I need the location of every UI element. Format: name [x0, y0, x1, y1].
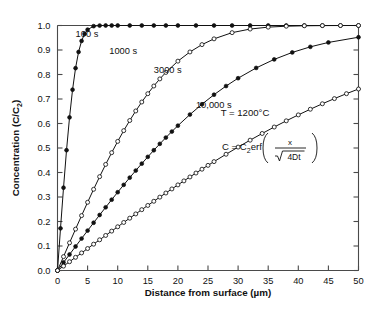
y-tick-label: 0.1	[38, 241, 51, 251]
data-point	[68, 253, 72, 257]
data-point	[158, 195, 162, 199]
data-point	[128, 119, 132, 123]
data-point	[158, 142, 162, 146]
data-point	[194, 24, 198, 28]
data-point	[116, 24, 120, 28]
data-point	[176, 124, 180, 128]
data-point	[176, 183, 180, 187]
data-point	[116, 225, 120, 229]
data-point	[128, 24, 132, 28]
data-point	[74, 66, 78, 70]
data-point	[98, 24, 102, 28]
data-point	[146, 203, 150, 207]
x-tick-label: 15	[143, 276, 153, 286]
data-point	[230, 31, 234, 35]
data-point	[212, 160, 216, 164]
data-point	[230, 24, 234, 28]
data-point	[308, 45, 312, 49]
data-point	[65, 148, 69, 152]
equation-numerator: x	[288, 138, 292, 147]
data-point	[176, 59, 180, 63]
data-point	[236, 76, 240, 80]
data-point	[110, 229, 114, 233]
data-point	[128, 216, 132, 220]
y-tick-label: 0.0	[38, 266, 51, 276]
data-point	[338, 24, 342, 28]
data-point	[86, 247, 90, 251]
data-point	[68, 241, 72, 245]
data-point	[92, 24, 96, 28]
data-point	[92, 187, 96, 191]
data-point	[62, 264, 66, 268]
data-point	[104, 162, 108, 166]
data-point	[128, 176, 132, 180]
data-point	[140, 208, 144, 212]
data-point	[116, 190, 120, 194]
data-point	[98, 213, 102, 217]
data-point	[308, 107, 312, 111]
data-point	[188, 50, 192, 54]
data-point	[122, 183, 126, 187]
data-point	[92, 221, 96, 225]
data-point	[200, 167, 204, 171]
data-point	[254, 66, 258, 70]
data-point	[212, 93, 216, 97]
x-tick-label: 50	[353, 276, 363, 286]
data-point	[56, 269, 60, 273]
data-point	[92, 242, 96, 246]
data-point	[284, 119, 288, 123]
data-point	[122, 129, 126, 133]
data-point	[332, 97, 336, 101]
y-tick-label: 0.3	[38, 192, 51, 202]
data-point	[320, 102, 324, 106]
data-point	[302, 24, 306, 28]
data-point	[134, 169, 138, 173]
data-point	[104, 205, 108, 209]
data-point	[176, 24, 180, 28]
curve-label-100-s: 100 s	[76, 29, 99, 39]
data-point	[158, 77, 162, 81]
data-point	[140, 162, 144, 166]
data-point	[68, 115, 72, 119]
y-tick-label: 0.9	[38, 45, 51, 55]
data-point	[86, 229, 90, 233]
data-point	[77, 50, 81, 54]
data-point	[194, 171, 198, 175]
data-point	[296, 113, 300, 117]
data-point	[152, 84, 156, 88]
data-point	[266, 25, 270, 29]
data-point	[140, 24, 144, 28]
data-point	[122, 220, 126, 224]
data-point	[344, 92, 348, 96]
diffusion-concentration-chart: 0.00.10.20.30.40.50.60.70.80.91.0 051015…	[0, 0, 380, 317]
data-point	[284, 24, 288, 28]
x-tick-label: 10	[113, 276, 123, 286]
curve-label-1000-s: 1000 s	[109, 46, 137, 56]
data-point	[62, 255, 66, 259]
y-tick-label: 1.0	[38, 21, 51, 31]
data-point	[290, 51, 294, 55]
data-point	[80, 214, 84, 218]
data-point	[200, 43, 204, 47]
y-tick-label: 0.5	[38, 143, 51, 153]
data-point	[224, 152, 228, 156]
data-point	[357, 24, 361, 28]
data-point	[110, 151, 114, 155]
x-tick-label: 20	[173, 276, 183, 286]
y-tick-label: 0.2	[38, 217, 51, 227]
data-point	[134, 212, 138, 216]
x-tick-label: 35	[263, 276, 273, 286]
data-point	[182, 179, 186, 183]
temperature-annotation: T = 1200°C	[221, 107, 270, 118]
x-tick-label: 30	[233, 276, 243, 286]
data-point	[188, 175, 192, 179]
data-point	[164, 24, 168, 28]
data-point	[248, 27, 252, 31]
data-point	[146, 155, 150, 159]
data-point	[152, 148, 156, 152]
data-point	[140, 100, 144, 104]
data-point	[98, 238, 102, 242]
data-point	[188, 113, 192, 117]
data-point	[104, 233, 108, 237]
data-point	[74, 227, 78, 231]
